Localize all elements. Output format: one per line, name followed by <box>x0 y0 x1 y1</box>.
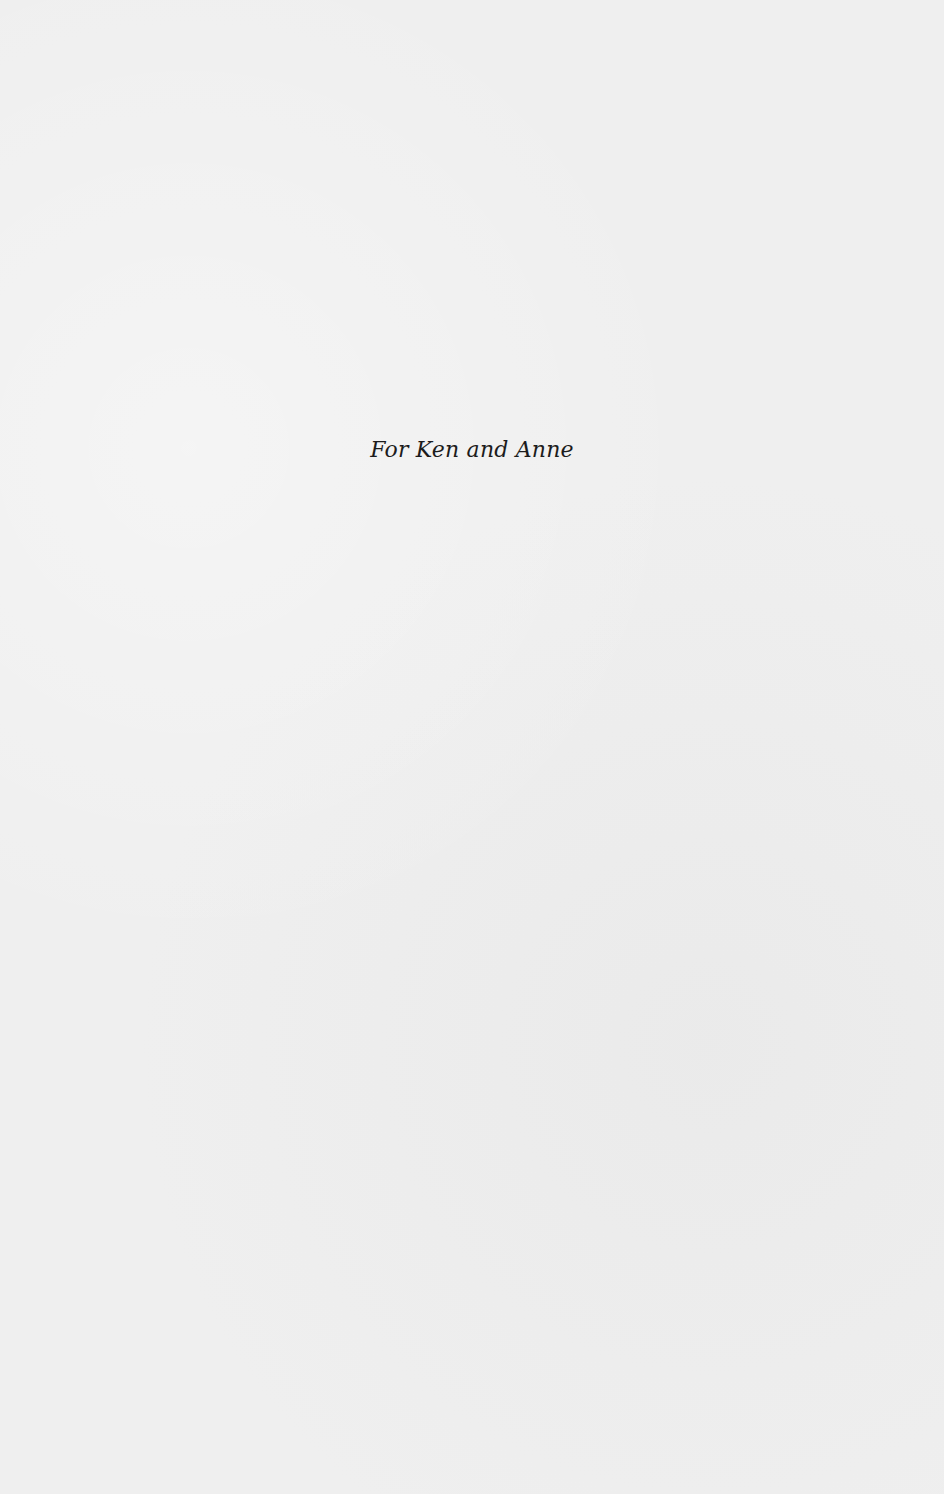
dedication-text: For Ken and Anne <box>0 434 944 466</box>
book-page: For Ken and Anne <box>0 0 944 1494</box>
